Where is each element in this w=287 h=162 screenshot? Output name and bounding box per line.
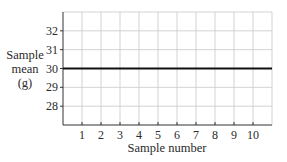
x-tick-labels: 12345678910 (79, 128, 259, 142)
y-tick-label: 29 (46, 80, 58, 94)
x-axis-label: Sample number (128, 141, 208, 155)
y-tick-label: 31 (46, 43, 58, 57)
x-tick-label: 4 (136, 128, 142, 142)
x-tick-label: 6 (174, 128, 180, 142)
x-tick-label: 3 (117, 128, 123, 142)
x-tick-label: 5 (155, 128, 161, 142)
x-tick-label: 8 (212, 128, 218, 142)
y-axis-label: Samplemean(g) (6, 48, 44, 90)
y-tick-labels: 2829303132 (46, 24, 58, 113)
y-axis-label-line: (g) (18, 76, 33, 90)
y-tick-label: 32 (46, 24, 58, 38)
sample-mean-chart: 2829303132 12345678910 Samplemean(g) Sam… (0, 0, 287, 162)
y-tick-label: 28 (46, 99, 58, 113)
x-tick-label: 10 (247, 128, 259, 142)
x-tick-label: 1 (79, 128, 85, 142)
x-tick-label: 2 (98, 128, 104, 142)
y-axis-label-line: mean (11, 62, 39, 76)
y-tick-label: 30 (46, 62, 58, 76)
x-tick-label: 9 (231, 128, 237, 142)
x-tick-label: 7 (193, 128, 199, 142)
y-axis-label-line: Sample (6, 48, 44, 62)
